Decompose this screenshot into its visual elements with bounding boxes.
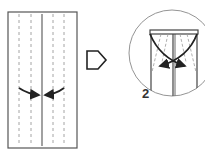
step-1-panel <box>8 12 77 148</box>
fold-arrow-left-corner-icon <box>150 34 185 66</box>
fold-arrow-right-corner-icon <box>160 34 197 66</box>
fold-arrow-right-icon <box>45 88 64 95</box>
next-step-arrow-icon <box>87 51 106 69</box>
dashed-diagonal-fold <box>180 34 186 62</box>
step-2-detail-panel: 2 <box>129 10 205 101</box>
detail-circle <box>129 10 205 96</box>
folded-paper-top-edge <box>150 30 198 34</box>
origami-diagram: 2 <box>0 0 205 152</box>
step-number-label: 2 <box>142 86 149 101</box>
fold-arrow-left-icon <box>19 88 39 95</box>
